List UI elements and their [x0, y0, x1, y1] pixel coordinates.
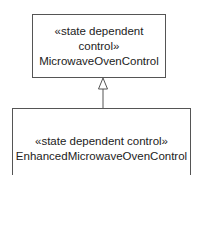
hollow-triangle-icon: [99, 78, 108, 89]
class-name: EnhancedMicrowaveOvenControl: [16, 149, 187, 164]
class-enhanced-microwave-oven-control: «state dependent control» EnhancedMicrow…: [12, 108, 191, 175]
stereotype: «state dependent control»: [35, 134, 168, 149]
